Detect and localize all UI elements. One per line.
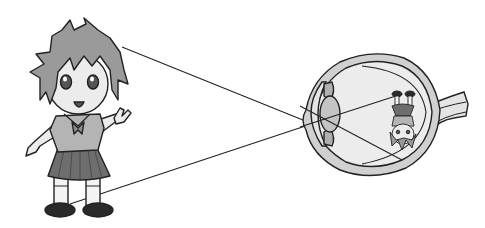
diagram-canvas <box>0 0 485 228</box>
left-shoe <box>45 203 75 217</box>
girl-figure <box>26 18 131 217</box>
lens <box>320 96 340 132</box>
eyeball <box>303 54 468 176</box>
right-shoe <box>83 203 113 217</box>
inverted-skirt <box>392 104 414 116</box>
peace-sign-hand <box>114 108 131 124</box>
shirt <box>50 114 104 152</box>
eye-image-diagram <box>0 0 485 228</box>
